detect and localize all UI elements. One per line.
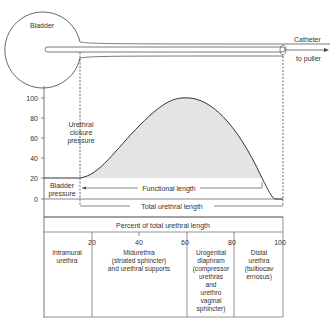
x-tick-20: 20 (88, 239, 96, 246)
closure-pressure-area (80, 98, 262, 178)
y-tick-80: 80 (30, 115, 38, 122)
svg-text:Distal: Distal (251, 249, 268, 256)
svg-text:urethras: urethras (199, 273, 224, 280)
x-tick-100: 100 (274, 239, 286, 246)
svg-text:(compressor: (compressor (193, 265, 230, 273)
arrow-right-icon (324, 48, 329, 52)
functional-length-label: Functional length (142, 185, 195, 193)
y-tick-100: 100 (26, 95, 38, 102)
svg-text:and urethral supports: and urethral supports (108, 265, 171, 273)
svg-text:Urogenital: Urogenital (196, 249, 227, 257)
y-tick-0: 0 (34, 196, 38, 203)
urethral-pressure-diagram: 100 80 60 40 20 0 Functional length Tota… (0, 0, 331, 320)
svg-text:diaphram: diaphram (197, 257, 225, 265)
region-distal: Distal urethra (bulbocav ernosus) (245, 249, 274, 281)
region-midurethra: Midurethra (striated sphincter) and uret… (108, 249, 171, 273)
svg-text:ernosus): ernosus) (246, 273, 272, 281)
svg-text:pressure: pressure (67, 137, 94, 145)
svg-text:closure: closure (70, 129, 93, 136)
to-puller-label: to puller (296, 55, 322, 63)
svg-text:Midurethra: Midurethra (123, 249, 155, 256)
svg-text:urethra: urethra (249, 257, 270, 264)
bladder-pressure-label: Bladder pressure (48, 182, 75, 198)
region-urogenital: Urogenital diaphram (compressor urethras… (193, 249, 230, 313)
x-tick-60: 60 (181, 239, 189, 246)
region-intramural: Intramural urethra (52, 249, 82, 264)
x-tick-40: 40 (135, 239, 143, 246)
svg-text:Bladder: Bladder (50, 182, 75, 189)
svg-text:sphincter): sphincter) (197, 305, 226, 313)
svg-text:urethra: urethra (57, 257, 78, 264)
catheter-label: Catheter (294, 36, 322, 43)
x-tick-80: 80 (228, 239, 236, 246)
total-length-label: Total urethral length (141, 203, 203, 211)
y-tick-20: 20 (30, 175, 38, 182)
y-ticks (41, 98, 44, 199)
svg-text:(bulbocav: (bulbocav (245, 265, 274, 273)
svg-text:pressure: pressure (48, 190, 75, 198)
percent-header: Percent of total urethral length (116, 222, 210, 230)
svg-text:vaginal: vaginal (201, 297, 222, 305)
y-tick-40: 40 (30, 155, 38, 162)
catheter (45, 47, 285, 52)
svg-text:Urethral: Urethral (69, 121, 94, 128)
svg-text:Intramural: Intramural (52, 249, 82, 256)
y-tick-60: 60 (30, 135, 38, 142)
bladder-label: Bladder (30, 22, 55, 29)
urethral-closure-label: Urethral closure pressure (67, 121, 94, 145)
svg-text:(striated sphincter): (striated sphincter) (112, 257, 167, 265)
svg-text:urethro: urethro (201, 289, 222, 296)
arrow-left-icon (82, 187, 86, 190)
svg-text:and: and (205, 281, 216, 288)
